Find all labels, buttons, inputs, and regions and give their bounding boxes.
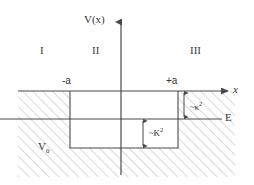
annotation-K-squared: ~K2 <box>149 127 163 138</box>
well-depth-subscript: 0 <box>46 147 50 155</box>
annotation-K-exponent: 2 <box>160 126 163 133</box>
region-label-I: I <box>40 45 44 56</box>
boundary-label-plus-a: +a <box>166 76 177 86</box>
well-depth-symbol: V <box>38 140 46 152</box>
diagram-canvas <box>0 0 254 185</box>
region-label-II: II <box>92 45 99 56</box>
energy-label: E <box>225 112 232 123</box>
boundary-label-minus-a: -a <box>62 76 71 86</box>
v-axis-label: V(x) <box>84 14 105 25</box>
region-label-III: III <box>190 45 201 56</box>
x-axis-label: x <box>233 84 238 95</box>
well-depth-label: V0 <box>38 141 49 155</box>
annotation-kappa-exponent: 2 <box>199 100 202 107</box>
potential-well-diagram: V(x) x I II III -a +a E V0 ~κ2 ~K2 <box>0 0 254 185</box>
annotation-kappa-squared: ~κ2 <box>190 101 202 112</box>
